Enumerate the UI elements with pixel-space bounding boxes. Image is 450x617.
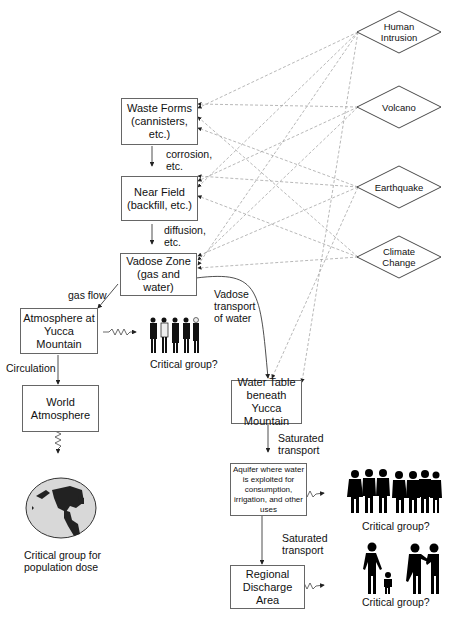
water-table-label: Water Table	[237, 376, 295, 388]
regional-discharge-sub: Discharge Area	[243, 581, 293, 606]
world-atmosphere-label: World	[46, 396, 75, 408]
population-caption-line1: Critical group for	[24, 549, 101, 561]
atmosphere-yucca-label: Atmosphere at	[23, 312, 95, 324]
vadose-text: Vadose	[214, 288, 249, 300]
population-caption-line2: population dose	[24, 561, 98, 573]
saturated-text-1: Saturated	[278, 432, 324, 444]
waste-forms-box: Waste Forms(cannisters,etc.)	[121, 98, 198, 145]
atmosphere-yucca-sub: Yucca Mountain	[36, 325, 81, 350]
gas-flow-label: gas flow	[68, 289, 107, 301]
climate-change-label: Climate	[383, 246, 415, 257]
human-intrusion-label: Human	[384, 21, 415, 32]
human-intrusion-diamond: HumanIntrusion	[356, 10, 442, 54]
transport-text-2: transport	[282, 544, 323, 556]
aquifer-label: Aquifer where water	[233, 465, 304, 474]
saturated-text-2: Saturated	[282, 532, 328, 544]
adult-child-people-icon	[360, 541, 442, 595]
water-table-sub1: beneath Yucca	[247, 389, 287, 414]
aquifer-box: Aquifer where wateris exploited forconsu…	[230, 463, 307, 516]
waste-forms-label: Waste Forms	[127, 102, 192, 114]
atmosphere-yucca-box: Atmosphere atYucca Mountain	[20, 308, 98, 354]
water-table-sub2: Mountain	[244, 415, 289, 427]
saturated-transport-2-label: Saturatedtransport	[282, 532, 328, 556]
corrosion-etc: etc.	[166, 160, 183, 172]
corrosion-label: corrosion,etc.	[166, 148, 212, 172]
world-atmosphere-sub: Atmosphere	[31, 409, 90, 421]
human-intrusion-sub: Intrusion	[381, 32, 417, 43]
people-group-1-icon	[148, 316, 202, 356]
diffusion-text: diffusion,	[164, 224, 206, 236]
volcano-diamond: Volcano	[356, 85, 442, 129]
water-table-box: Water Tablebeneath YuccaMountain	[231, 380, 302, 424]
critical-group-caption-3: Critical group?	[362, 596, 430, 608]
vadose-zone-label: Vadose Zone	[126, 255, 191, 267]
vadose-zone-sub: (gas and water)	[137, 268, 180, 293]
globe-icon	[24, 476, 98, 540]
regional-discharge-box: RegionalDischarge Area	[230, 565, 305, 609]
population-dose-caption: Critical group forpopulation dose	[24, 549, 101, 573]
vadose-zone-box: Vadose Zone(gas and water)	[120, 253, 197, 296]
earthquake-diamond: Earthquake	[356, 165, 442, 209]
near-field-sub: (backfill, etc.)	[127, 199, 192, 211]
aquifer-sub1: is exploited for	[243, 475, 295, 484]
volcano-label: Volcano	[382, 102, 416, 113]
earthquake-label: Earthquake	[375, 182, 424, 193]
climate-change-diamond: ClimateChange	[356, 235, 442, 279]
aquifer-sub4: uses	[260, 505, 277, 514]
people-group-2-icon	[347, 468, 443, 514]
aquifer-sub3: irrigation, and other	[234, 495, 303, 504]
transport-text: transport	[214, 300, 255, 312]
critical-group-caption-1: Critical group?	[150, 358, 218, 370]
saturated-transport-1-label: Saturatedtransport	[278, 432, 324, 456]
circulation-label: Circulation	[6, 362, 56, 374]
critical-group-caption-2: Critical group?	[362, 520, 430, 532]
vadose-transport-label: Vadosetransportof water	[214, 288, 255, 324]
diffusion-etc: etc.	[164, 236, 181, 248]
corrosion-text: corrosion,	[166, 148, 212, 160]
world-atmosphere-box: WorldAtmosphere	[22, 385, 99, 432]
diffusion-label: diffusion,etc.	[164, 224, 206, 248]
of-water-text: of water	[214, 312, 251, 324]
waste-forms-sub1: (cannisters,	[131, 115, 188, 127]
regional-discharge-label: Regional	[246, 568, 289, 580]
aquifer-sub2: consumption,	[245, 485, 293, 494]
near-field-box: Near Field(backfill, etc.)	[121, 176, 198, 221]
climate-change-sub: Change	[382, 257, 415, 268]
near-field-label: Near Field	[134, 186, 185, 198]
transport-text-1: transport	[278, 444, 319, 456]
waste-forms-sub2: etc.)	[149, 128, 170, 140]
